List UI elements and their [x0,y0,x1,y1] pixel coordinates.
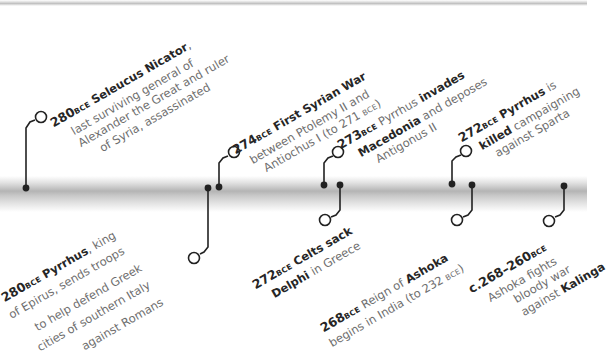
connector-272-celts [320,182,343,225]
connector-273-macedonia [321,147,343,188]
connector-280-pyrrhus [189,185,211,263]
connector-268-ashoka [452,182,475,225]
connector-280-seleucus [23,112,46,191]
connector-268-260-kalinga [544,183,567,226]
